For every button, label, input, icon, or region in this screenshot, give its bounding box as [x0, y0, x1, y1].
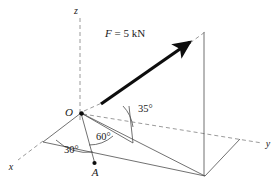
- diagram-canvas: z x y O A 35° 60° 30° F = 5 kN: [0, 0, 276, 184]
- force-diagram-figure: z x y O A 35° 60° 30° F = 5 kN: [0, 0, 276, 184]
- x-axis-line: [18, 141, 43, 160]
- angle-label-60: 60°: [96, 131, 111, 142]
- force-equals: =: [112, 27, 124, 39]
- origin-label: O: [65, 106, 73, 118]
- point-a-label: A: [91, 166, 99, 178]
- angle-label-35: 35°: [138, 103, 153, 114]
- base-diagonal: [81, 113, 205, 176]
- force-unit: kN: [129, 27, 145, 39]
- point-a-marker: [92, 161, 96, 165]
- force-extension-dashed: [190, 32, 205, 43]
- force-label: F = 5 kN: [104, 27, 145, 39]
- angle-label-30: 30°: [64, 144, 79, 155]
- ray-origin-to-a: [81, 113, 95, 164]
- base-edge-right: [205, 139, 240, 176]
- origin-point-marker: [79, 111, 84, 116]
- base-edge-left: [43, 113, 81, 142]
- z-axis-label: z: [73, 5, 78, 16]
- x-axis-label: x: [8, 161, 14, 172]
- force-vector-arrow: [101, 42, 190, 104]
- arc-35-degrees: [123, 106, 133, 127]
- y-axis-label: y: [265, 138, 271, 149]
